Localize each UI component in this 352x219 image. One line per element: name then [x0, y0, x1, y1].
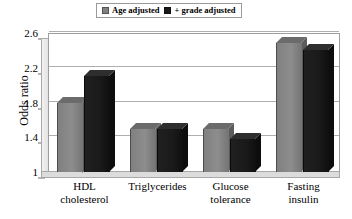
chart-legend: Age adjusted + grade adjusted — [96, 3, 242, 18]
bar-front-face — [57, 103, 83, 173]
x-axis-category-label: Fastinginsulin — [259, 180, 348, 206]
bar — [157, 129, 182, 172]
category-label-line: cholesterol — [40, 193, 129, 206]
legend-entry-grade-adjusted: + grade adjusted — [164, 6, 235, 15]
category-label-line: Fasting — [259, 180, 348, 193]
bar — [303, 50, 328, 172]
legend-entry-age-adjusted: Age adjusted — [102, 6, 159, 15]
bar-group — [57, 33, 109, 172]
bar-group — [130, 33, 182, 172]
gridline — [49, 31, 339, 32]
bar-front-face — [303, 50, 329, 172]
bar-front-face — [276, 43, 302, 172]
plot-floor — [41, 171, 340, 178]
bar-chart: Age adjusted + grade adjusted Odds ratio… — [0, 0, 352, 219]
bar — [203, 129, 228, 172]
bar-group — [203, 33, 255, 172]
legend-swatch-black-icon — [164, 7, 171, 14]
bar-front-face — [230, 139, 256, 172]
y-axis-tick-label: 2.6 — [24, 28, 38, 39]
y-axis-tick-label: 1.4 — [24, 132, 38, 143]
y-axis-tick-label: 1 — [33, 167, 39, 178]
x-axis-category-labels: HDLcholesterolTriglyceridesGlucosetolera… — [48, 180, 347, 216]
legend-swatch-gray-icon — [102, 7, 109, 14]
bars-layer — [48, 33, 340, 172]
category-label-line: insulin — [259, 193, 348, 206]
bar — [84, 76, 109, 172]
bar-front-face — [84, 76, 110, 172]
bar-front-face — [130, 129, 156, 172]
bar-front-face — [157, 129, 183, 172]
bar-group — [276, 33, 328, 172]
bar — [276, 43, 301, 172]
bar — [57, 103, 82, 173]
bar — [130, 129, 155, 172]
legend-label-grade-adjusted: + grade adjusted — [174, 6, 235, 15]
bar — [230, 139, 255, 172]
y-axis-ticks: 11.41.82.22.6 — [8, 33, 40, 172]
bar-front-face — [203, 129, 229, 172]
legend-label-age-adjusted: Age adjusted — [112, 6, 159, 15]
y-axis-tick-label: 2.2 — [24, 62, 38, 73]
y-axis-tick-label: 1.8 — [24, 97, 38, 108]
